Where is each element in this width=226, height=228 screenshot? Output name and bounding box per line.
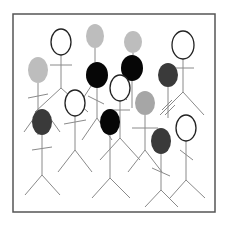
head-medium-p11 <box>135 91 155 115</box>
head-dark-p12 <box>32 109 52 135</box>
head-white-p1 <box>51 29 71 55</box>
head-light-p3 <box>28 57 48 83</box>
head-white-p7 <box>172 31 194 59</box>
head-black-p13 <box>100 109 120 135</box>
head-black-p4 <box>86 62 108 88</box>
crowd-illustration <box>0 0 226 228</box>
head-dark-p15 <box>151 128 171 154</box>
head-dark-p8 <box>158 63 178 87</box>
head-light-p2 <box>86 24 104 48</box>
stick-figure-crowd-diagram <box>0 0 226 228</box>
head-light-p5 <box>124 31 142 53</box>
head-white-p10 <box>110 75 130 101</box>
head-white-p14 <box>176 115 196 141</box>
head-white-p9 <box>65 90 85 116</box>
